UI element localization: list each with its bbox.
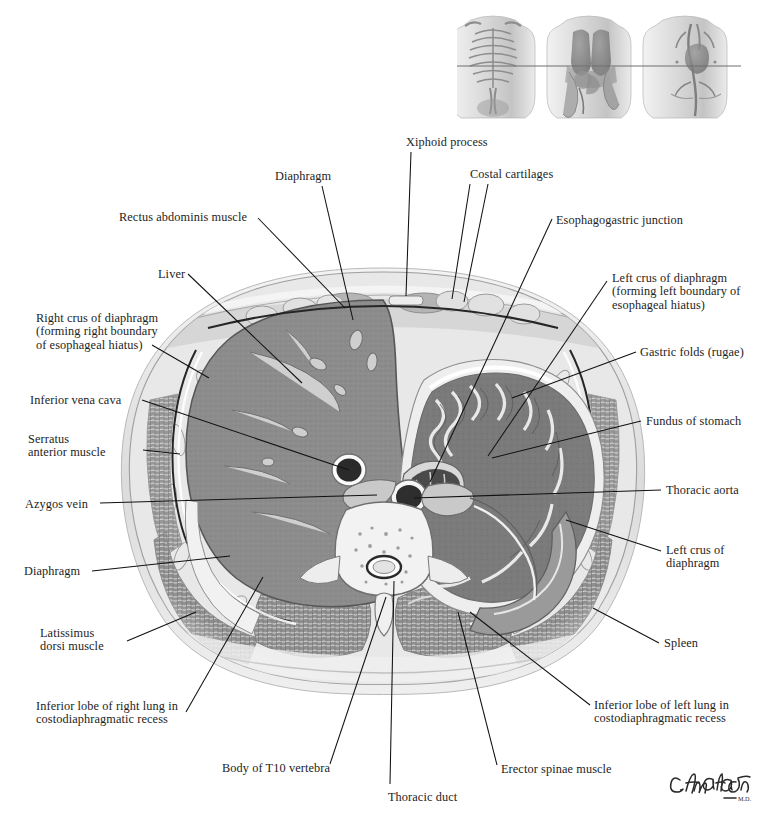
- label-inferior-lobe-right-lung: Inferior lobe of right lung in costodiap…: [36, 700, 178, 727]
- label-fundus-of-stomach: Fundus of stomach: [646, 415, 741, 428]
- leader-left-crus-upper: [488, 281, 607, 456]
- label-diaphragm-top: Diaphragm: [275, 170, 331, 183]
- leader-inf-lobe-right-lung: [186, 577, 263, 712]
- signature-svg: M.D.: [668, 766, 762, 806]
- leader-gastric-folds: [512, 352, 636, 398]
- label-left-crus-lower: Left crus of diaphragm: [666, 544, 725, 571]
- leader-erector-spinae: [458, 612, 497, 765]
- label-diaphragm-left: Diaphragm: [24, 565, 80, 578]
- leader-diaphragm-left: [92, 556, 230, 571]
- leader-inferior-vena-cava: [142, 400, 349, 470]
- label-right-crus: Right crus of diaphragm (forming right b…: [36, 312, 158, 352]
- label-liver: Liver: [158, 268, 185, 281]
- label-spleen: Spleen: [664, 637, 698, 650]
- leader-azygos-vein: [100, 495, 377, 503]
- label-xiphoid-process: Xiphoid process: [406, 136, 488, 149]
- signature-credential: M.D.: [738, 795, 752, 802]
- label-serratus-anterior-muscle: Serratus anterior muscle: [28, 433, 106, 460]
- artist-signature: M.D.: [668, 766, 762, 806]
- label-gastric-folds-rugae: Gastric folds (rugae): [640, 346, 744, 359]
- leader-esophagogastric-junction: [430, 219, 552, 482]
- label-thoracic-duct: Thoracic duct: [388, 791, 457, 804]
- label-latissimus-dorsi-muscle: Latissimus dorsi muscle: [40, 627, 104, 654]
- leader-fundus-of-stomach: [492, 421, 641, 458]
- label-inferior-lobe-left-lung: Inferior lobe of left lung in costodiaph…: [594, 699, 729, 726]
- label-azygos-vein: Azygos vein: [25, 498, 88, 511]
- leader-latissimus-dorsi: [127, 612, 196, 641]
- label-rectus-abdominis-muscle: Rectus abdominis muscle: [119, 211, 247, 224]
- label-thoracic-aorta: Thoracic aorta: [666, 484, 739, 497]
- label-costal-cartilages: Costal cartilages: [470, 168, 553, 181]
- leader-inf-lobe-left-lung: [470, 612, 590, 705]
- leader-liver: [188, 274, 302, 383]
- leader-rectus-abdominis: [258, 218, 345, 308]
- leader-spleen: [593, 608, 659, 643]
- leader-left-crus-lower: [566, 520, 661, 551]
- anatomy-plate: Xiphoid processDiaphragmCostal cartilage…: [0, 0, 767, 825]
- label-esophagogastric-junction: Esophagogastric junction: [556, 214, 683, 227]
- label-erector-spinae-muscle: Erector spinae muscle: [501, 763, 612, 776]
- leader-right-crus: [152, 345, 209, 378]
- label-left-crus-upper: Left crus of diaphragm (forming left bou…: [612, 272, 741, 312]
- label-body-of-t10-vertebra: Body of T10 vertebra: [222, 762, 330, 775]
- leader-costal-cartilages-a: [452, 184, 470, 299]
- leader-thoracic-duct: [390, 581, 394, 784]
- label-inferior-vena-cava: Inferior vena cava: [30, 394, 121, 407]
- leader-serratus-anterior: [143, 450, 180, 454]
- leader-thoracic-aorta: [414, 490, 661, 498]
- leader-xiphoid-process: [406, 152, 411, 296]
- leader-body-of-t10: [330, 597, 386, 764]
